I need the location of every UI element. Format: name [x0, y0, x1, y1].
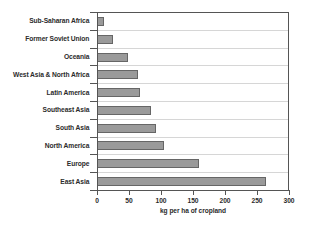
- category-label: North America: [7, 137, 94, 155]
- bar-row: [97, 155, 288, 173]
- y-tick: [90, 190, 97, 191]
- x-tick-label: 200: [219, 196, 230, 205]
- y-axis-category-labels: Sub-Saharan AfricaFormer Soviet UnionOce…: [0, 12, 94, 190]
- y-tick: [90, 30, 97, 31]
- category-label: Oceania: [7, 48, 94, 66]
- plot-area: [97, 12, 289, 190]
- bar: [97, 70, 138, 79]
- x-tick-label: 100: [155, 196, 166, 205]
- bar: [97, 159, 199, 168]
- bar: [97, 124, 156, 133]
- category-label: Former Soviet Union: [7, 30, 94, 48]
- x-tick-label: 250: [251, 196, 262, 205]
- bar-row: [97, 66, 288, 84]
- x-tick: [289, 190, 290, 195]
- bar: [97, 53, 128, 62]
- category-label: Sub-Saharan Africa: [7, 12, 94, 30]
- bar-row: [97, 102, 288, 120]
- y-tick: [90, 101, 97, 102]
- bar-row: [97, 13, 288, 31]
- bar: [97, 35, 113, 44]
- y-tick: [90, 172, 97, 173]
- y-tick: [90, 65, 97, 66]
- bar-row: [97, 48, 288, 66]
- bar-row: [97, 119, 288, 137]
- x-tick: [129, 190, 130, 195]
- x-tick-label: 150: [187, 196, 198, 205]
- y-tick: [90, 48, 97, 49]
- x-tick: [193, 190, 194, 195]
- category-label: Europe: [7, 154, 94, 172]
- x-tick-label: 300: [283, 196, 294, 205]
- bar: [97, 17, 104, 26]
- x-axis-ticks: 050100150200250300: [97, 190, 289, 206]
- bar-row: [97, 137, 288, 155]
- category-label: East Asia: [7, 172, 94, 190]
- x-axis-title: kg per ha of cropland: [97, 207, 289, 214]
- x-tick: [257, 190, 258, 195]
- category-label: Latin America: [7, 83, 94, 101]
- bar: [97, 88, 140, 97]
- x-tick-label: 0: [95, 196, 99, 205]
- y-tick: [90, 83, 97, 84]
- bar: [97, 177, 266, 186]
- bar: [97, 106, 151, 115]
- x-tick: [161, 190, 162, 195]
- bar-row: [97, 31, 288, 49]
- y-tick: [90, 119, 97, 120]
- bar-row: [97, 172, 288, 190]
- x-tick-label: 50: [125, 196, 132, 205]
- category-label: South Asia: [7, 119, 94, 137]
- category-label: Southeast Asia: [7, 101, 94, 119]
- x-tick: [97, 190, 98, 195]
- y-tick: [90, 137, 97, 138]
- bar-row: [97, 84, 288, 102]
- y-axis-ticks: [90, 12, 97, 190]
- y-axis-line: [97, 12, 98, 190]
- bar: [97, 141, 164, 150]
- category-label: West Asia & North Africa: [7, 65, 94, 83]
- y-tick: [90, 154, 97, 155]
- bar-series: [97, 13, 288, 190]
- bar-chart: Sub-Saharan AfricaFormer Soviet UnionOce…: [0, 0, 320, 230]
- x-tick: [225, 190, 226, 195]
- y-tick: [90, 12, 97, 13]
